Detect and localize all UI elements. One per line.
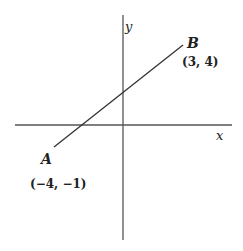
point-a-label: A <box>39 151 52 167</box>
point-a-coords: (−4, −1) <box>30 177 87 191</box>
point-b-coords: (3, 4) <box>182 55 218 69</box>
segment-ab <box>54 45 183 147</box>
y-axis-label: y <box>124 19 133 34</box>
coordinate-diagram: y x B (3, 4) A (−4, −1) <box>0 0 243 251</box>
x-axis-label: x <box>216 128 224 143</box>
point-b-label: B <box>186 35 199 51</box>
